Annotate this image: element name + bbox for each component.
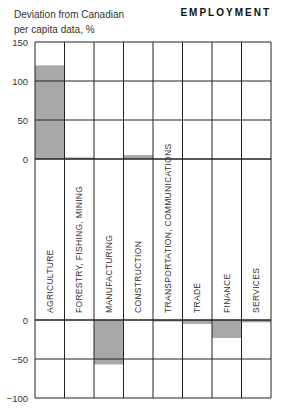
category-label: AGRICULTURE	[45, 249, 55, 313]
category-label: SERVICES	[251, 268, 261, 313]
bar-2	[94, 320, 124, 364]
bar-0	[35, 65, 65, 159]
y-tick-label: −100	[7, 393, 28, 404]
category-label: FORESTRY, FISHING, MINING	[74, 186, 84, 313]
category-label: TRANSPORTATION, COMMUNICATIONS	[163, 144, 173, 313]
y-tick-label: 150	[12, 37, 28, 48]
category-label: FINANCE	[222, 274, 232, 313]
y-tick-label: 50	[17, 115, 28, 126]
category-label: CONSTRUCTION	[133, 241, 143, 313]
bar-6	[212, 320, 242, 338]
y-tick-label: 0	[23, 154, 28, 165]
category-label: TRADE	[192, 283, 202, 313]
y-tick-label: 0	[23, 315, 28, 326]
bar-chart: 1501005000−50−100AGRICULTUREFORESTRY, FI…	[0, 0, 281, 411]
y-tick-label: 100	[12, 76, 28, 87]
y-tick-label: −50	[12, 354, 28, 365]
category-label: MANUFACTURING	[104, 235, 114, 313]
